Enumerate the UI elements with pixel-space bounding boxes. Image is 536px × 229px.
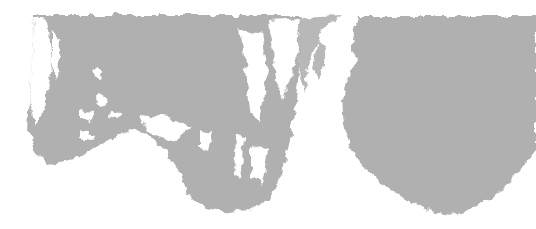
ink-texture-svg bbox=[0, 0, 536, 229]
middle-streaks bbox=[298, 16, 340, 95]
left-ink-blob bbox=[28, 15, 312, 212]
right-ink-blob bbox=[342, 16, 536, 214]
ink-texture-image bbox=[0, 0, 536, 229]
